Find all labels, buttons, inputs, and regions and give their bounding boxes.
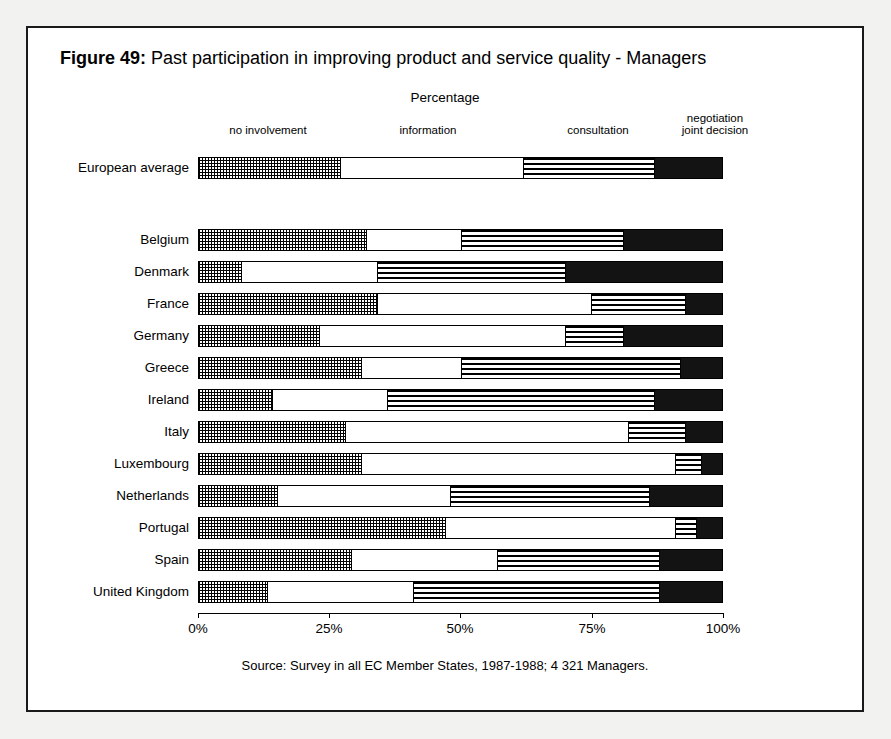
chart-row-greece: Greece [198,357,723,379]
chart-row-luxembourg: Luxembourg [198,453,723,475]
legend-label: information [400,124,457,136]
segment-negotiation [659,582,722,602]
segment-no-involvement [199,486,277,506]
segment-negotiation [623,230,722,250]
legend-item-negotiation-joint-decision: negotiation joint decision [640,112,790,136]
x-axis-label-25: 25% [299,621,359,636]
x-axis-tick-100 [723,613,724,618]
stacked-bar[interactable] [198,389,723,411]
segment-consultation [450,486,649,506]
segment-negotiation [685,422,722,442]
segment-no-involvement [199,422,345,442]
segment-consultation [387,390,654,410]
x-axis-label-0: 0% [168,621,228,636]
x-axis-tick-50 [460,613,461,618]
legend-label-line1: negotiation [640,112,790,124]
stacked-bar[interactable] [198,453,723,475]
row-label: Belgium [140,229,198,251]
legend-item-information: information [358,124,498,136]
segment-information [377,294,591,314]
row-label: Germany [133,325,198,347]
source-note: Source: Survey in all EC Member States, … [28,658,862,673]
segment-information [361,454,675,474]
chart-row-germany: Germany [198,325,723,347]
row-label: France [147,293,198,315]
segment-negotiation [680,358,722,378]
chart-row-belgium: Belgium [198,229,723,251]
row-label: Spain [154,549,198,571]
segment-no-involvement [199,550,351,570]
segment-no-involvement [199,582,267,602]
x-axis-tick-75 [592,613,593,618]
segment-information [345,422,627,442]
row-label: Ireland [148,389,198,411]
stacked-bar[interactable] [198,517,723,539]
row-label: Netherlands [116,485,198,507]
row-label: Denmark [134,261,198,283]
stacked-bar[interactable] [198,421,723,443]
segment-information [351,550,497,570]
segment-consultation [413,582,659,602]
segment-negotiation [565,262,722,282]
segment-information [445,518,675,538]
segment-no-involvement [199,390,272,410]
chart-row-portugal: Portugal [198,517,723,539]
segment-negotiation [623,326,722,346]
stacked-bar[interactable] [198,357,723,379]
legend-label: no involvement [229,124,306,136]
chart-plot-area: no involvement information consultation … [28,28,862,710]
row-label: Italy [164,421,198,443]
chart-row-italy: Italy [198,421,723,443]
segment-no-involvement [199,262,241,282]
segment-negotiation [696,518,722,538]
segment-consultation [377,262,565,282]
x-axis-tick-25 [329,613,330,618]
segment-information [241,262,377,282]
chart-row-netherlands: Netherlands [198,485,723,507]
legend-label: consultation [567,124,628,136]
stacked-bar[interactable] [198,549,723,571]
segment-negotiation [685,294,722,314]
row-label: Greece [145,357,198,379]
stacked-bar[interactable] [198,157,723,179]
chart-row-denmark: Denmark [198,261,723,283]
segment-negotiation [649,486,722,506]
chart-row-european-average: European average [198,157,723,179]
stacked-bar[interactable] [198,581,723,603]
segment-negotiation [654,158,722,178]
segment-no-involvement [199,294,377,314]
segment-information [340,158,523,178]
x-axis-tick-0 [198,613,199,618]
segment-consultation [461,230,623,250]
chart-row-spain: Spain [198,549,723,571]
chart-row-ireland: Ireland [198,389,723,411]
segment-information [366,230,460,250]
segment-no-involvement [199,358,361,378]
segment-negotiation [701,454,722,474]
x-axis-label-75: 75% [562,621,622,636]
legend-label-line2: joint decision [640,124,790,136]
x-axis-label-50: 50% [430,621,490,636]
segment-information [319,326,565,346]
segment-consultation [591,294,685,314]
stacked-bar[interactable] [198,293,723,315]
segment-no-involvement [199,158,340,178]
row-label: European average [78,157,198,179]
stacked-bar[interactable] [198,261,723,283]
stacked-bar[interactable] [198,229,723,251]
stacked-bar[interactable] [198,325,723,347]
x-axis-label-100: 100% [693,621,753,636]
row-label: Luxembourg [114,453,198,475]
segment-no-involvement [199,326,319,346]
segment-information [277,486,450,506]
chart-row-united-kingdom: United Kingdom [198,581,723,603]
segment-consultation [565,326,623,346]
segment-information [272,390,387,410]
segment-consultation [628,422,686,442]
segment-consultation [675,454,701,474]
segment-consultation [497,550,659,570]
segment-negotiation [659,550,722,570]
stacked-bar[interactable] [198,485,723,507]
segment-consultation [523,158,654,178]
row-label: United Kingdom [93,581,198,603]
